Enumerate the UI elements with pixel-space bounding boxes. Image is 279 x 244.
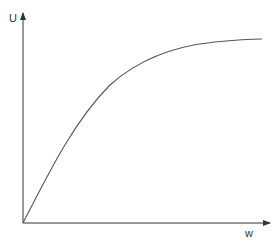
utility-chart: U w bbox=[0, 0, 279, 244]
x-axis-label: w bbox=[244, 227, 253, 239]
y-axis-label: U bbox=[9, 12, 17, 24]
utility-curve bbox=[23, 39, 262, 223]
